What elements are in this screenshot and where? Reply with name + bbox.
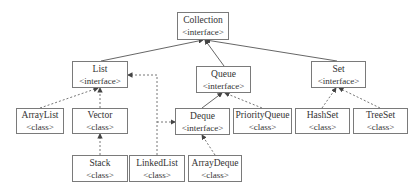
node-kind: <class> [86, 169, 114, 181]
node-arraydeque: ArrayDeque <class> [188, 155, 242, 182]
edge-deque-queue [202, 93, 222, 108]
node-stack: Stack <class> [72, 155, 128, 182]
node-kind: <class> [201, 169, 229, 181]
node-name: LinkedList [136, 157, 178, 169]
edge-arraylist-list [40, 88, 98, 108]
edge-arraydeque-deque [202, 135, 215, 155]
node-name: ArrayDeque [192, 157, 239, 169]
node-kind: <interface> [182, 26, 224, 38]
node-name: ArrayList [22, 109, 59, 121]
node-kind: <class> [367, 121, 395, 133]
node-name: Stack [89, 157, 110, 169]
node-set: Set <interface> [311, 61, 366, 88]
node-vector: Vector <class> [72, 108, 128, 134]
node-kind: <class> [143, 169, 171, 181]
node-name: PriorityQueue [236, 109, 290, 121]
node-priorityqueue: PriorityQueue <class> [233, 108, 292, 134]
node-kind: <interface> [203, 80, 245, 92]
collection-hierarchy-diagram: Collection <interface> List <interface> … [0, 0, 419, 196]
node-kind: <class> [309, 121, 337, 133]
edge-hashset-set [322, 88, 336, 108]
node-name: HashSet [307, 109, 339, 121]
node-name: Queue [211, 68, 236, 80]
node-hashset: HashSet <class> [295, 108, 350, 134]
node-kind: <interface> [79, 75, 121, 87]
node-name: List [93, 63, 108, 75]
edge-set-collection [206, 40, 337, 61]
node-queue: Queue <interface> [196, 66, 251, 93]
node-kind: <class> [26, 121, 54, 133]
node-list: List <interface> [72, 61, 128, 88]
node-kind: <class> [86, 121, 114, 133]
edge-list-collection [101, 40, 203, 61]
node-name: Set [332, 63, 344, 75]
edge-linkedlist-list [128, 75, 157, 155]
edge-queue-collection [205, 40, 224, 66]
node-kind: <class> [249, 121, 277, 133]
node-name: Collection [183, 14, 223, 26]
edge-treeset-set [339, 88, 380, 108]
node-deque: Deque <interface> [175, 108, 230, 135]
node-name: Deque [190, 110, 215, 122]
node-kind: <interface> [182, 122, 224, 134]
node-linkedlist: LinkedList <class> [129, 155, 185, 182]
edge-priorityqueue-queue [225, 93, 262, 108]
node-kind: <interface> [318, 75, 360, 87]
node-arraylist: ArrayList <class> [16, 108, 64, 134]
node-collection: Collection <interface> [177, 12, 229, 40]
node-name: TreeSet [366, 109, 395, 121]
node-treeset: TreeSet <class> [353, 108, 408, 134]
node-name: Vector [88, 109, 113, 121]
